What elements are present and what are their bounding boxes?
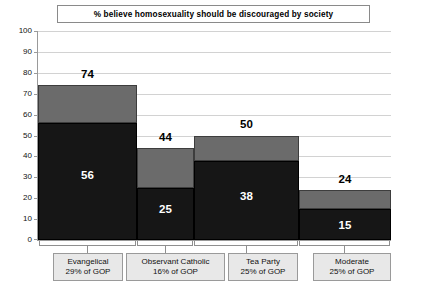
bar-total-value: 74 [38, 69, 137, 81]
bar-segment-total [299, 190, 391, 209]
bracket-stem [246, 246, 247, 253]
y-tick-label: 30 [6, 173, 32, 181]
bar-strong-value: 38 [194, 191, 299, 203]
category-sublabel: 29% of GOP [66, 267, 111, 277]
category-box-evangelical[interactable]: Evangelical 29% of GOP [53, 253, 123, 281]
y-tick-label: 10 [6, 215, 32, 223]
y-tick-label: 50 [6, 132, 32, 140]
plot-area: 74 56 44 25 50 38 24 15 [37, 31, 391, 241]
category-sublabel: 25% of GOP [241, 267, 286, 277]
bar-segment-total [137, 148, 194, 188]
bar-observant-catholic[interactable]: 44 25 [137, 31, 194, 240]
category-name: Tea Party [246, 257, 280, 267]
bar-strong-value: 56 [38, 170, 137, 182]
y-tick-label: 20 [6, 194, 32, 202]
bar-tea-party[interactable]: 50 38 [194, 31, 299, 240]
category-box-moderate[interactable]: Moderate 25% of GOP [313, 253, 391, 281]
y-tick-label: 70 [6, 90, 32, 98]
bar-total-value: 24 [299, 174, 391, 186]
bar-segment-strong [38, 123, 137, 240]
y-tick-label: 80 [6, 69, 32, 77]
y-tick-label: 0 [6, 236, 32, 244]
bracket-stem [87, 246, 88, 253]
y-tick-label: 100 [6, 27, 32, 35]
bar-segment-total [38, 85, 137, 123]
category-box-tea-party[interactable]: Tea Party 25% of GOP [228, 253, 298, 281]
category-name: Evangelical [68, 257, 109, 267]
y-tick-label: 90 [6, 48, 32, 56]
chart-title-box: % believe homosexuality should be discou… [57, 5, 370, 23]
category-sublabel: 25% of GOP [330, 267, 375, 277]
bracket-stem [344, 246, 345, 253]
bar-evangelical[interactable]: 74 56 [38, 31, 137, 240]
y-tick-label: 40 [6, 152, 32, 160]
category-sublabel: 16% of GOP [153, 267, 198, 277]
bar-total-value: 50 [194, 119, 299, 131]
category-name: Observant Catholic [141, 257, 209, 267]
chart-title: % believe homosexuality should be discou… [94, 10, 334, 19]
y-tick-label: 60 [6, 111, 32, 119]
category-box-observant-catholic[interactable]: Observant Catholic 16% of GOP [126, 253, 225, 281]
bar-segment-total [194, 136, 299, 161]
bar-strong-value: 15 [299, 220, 391, 232]
bar-strong-value: 25 [137, 204, 194, 216]
category-name: Moderate [335, 257, 369, 267]
bar-total-value: 44 [137, 132, 194, 144]
bracket-stem [165, 246, 166, 253]
bar-moderate[interactable]: 24 15 [299, 31, 391, 240]
